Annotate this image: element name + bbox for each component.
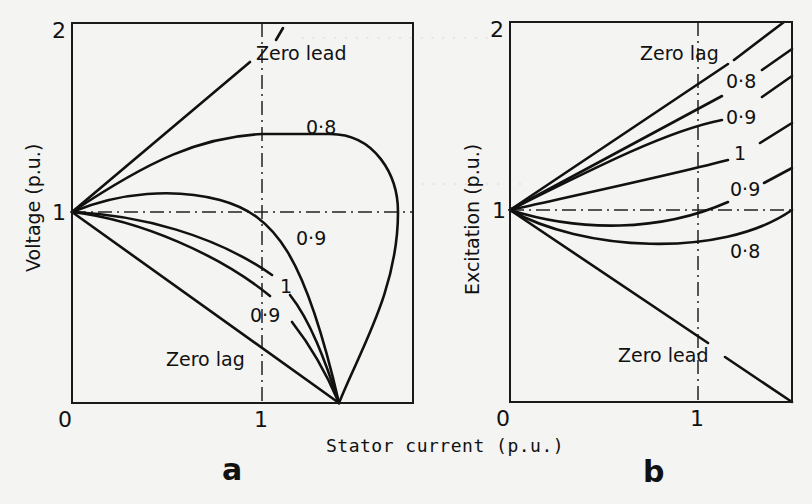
y-tick-2: 2 <box>52 18 66 43</box>
y-tick-1: 1 <box>52 200 66 225</box>
curve-09-lead-b-tail <box>764 168 792 183</box>
panel-b: 2 1 0 1 Excitation (p.u.) Zero lag 0·8 0… <box>461 17 792 489</box>
label-1-b: 1 <box>734 142 746 164</box>
label-zero-lead: Zero lead <box>256 42 346 64</box>
curve-09-lag-b <box>510 120 722 210</box>
label-08-lag-b: 0·8 <box>726 70 756 92</box>
label-08-lead-b: 0·8 <box>730 240 760 262</box>
curve-09-lead <box>72 193 339 403</box>
curve-zero-lead-b <box>510 210 708 343</box>
label-zero-lag-b: Zero lag <box>640 42 719 64</box>
curve-zero-lag-b <box>510 64 728 210</box>
curve-zero-lead <box>72 62 250 212</box>
y-tick-1-b: 1 <box>492 198 506 223</box>
label-09-lead: 0·9 <box>296 227 326 249</box>
curve-1-b-tail <box>760 123 792 143</box>
panel-a: 2 1 0 1 Voltage (p.u.) Zero lead 0·8 0·9… <box>22 18 413 487</box>
curve-1-b <box>510 160 728 210</box>
label-09-lead-b: 0·9 <box>730 178 760 200</box>
y-tick-2-b: 2 <box>490 17 504 42</box>
curve-09-lag-b-tail <box>762 76 792 97</box>
panel-label-a: a <box>222 452 242 487</box>
curve-09-lead-b <box>510 202 728 226</box>
x-axis-label: Stator current (p.u.) <box>326 435 564 456</box>
curve-zero-lag-b-tail <box>734 22 784 60</box>
curve-1 <box>72 212 272 275</box>
curve-09-lag-tail <box>292 322 339 403</box>
label-08-lead: 0·8 <box>306 116 336 138</box>
curve-08-lag-b-tail <box>762 49 792 70</box>
x-tick-0: 0 <box>58 407 72 432</box>
y-axis-label: Voltage (p.u.) <box>22 144 44 272</box>
label-09-lag-b: 0·9 <box>726 106 756 128</box>
label-zero-lead-b: Zero lead <box>618 344 708 366</box>
curve-zero-lead-tail <box>276 28 283 40</box>
y-axis-label-b: Excitation (p.u.) <box>461 144 483 295</box>
x-tick-1-b: 1 <box>690 406 704 431</box>
label-zero-lag: Zero lag <box>166 348 245 370</box>
panel-label-b: b <box>643 454 664 489</box>
curve-zero-lead-b-tail <box>725 357 792 402</box>
x-tick-0-b: 0 <box>496 406 510 431</box>
label-09-lag: 0·9 <box>250 304 280 326</box>
plot-frame-a <box>72 23 413 403</box>
x-tick-1: 1 <box>254 407 268 432</box>
figure: · · · · · · · · · · · · · · · · · · · · … <box>0 0 812 504</box>
label-1: 1 <box>280 275 292 297</box>
